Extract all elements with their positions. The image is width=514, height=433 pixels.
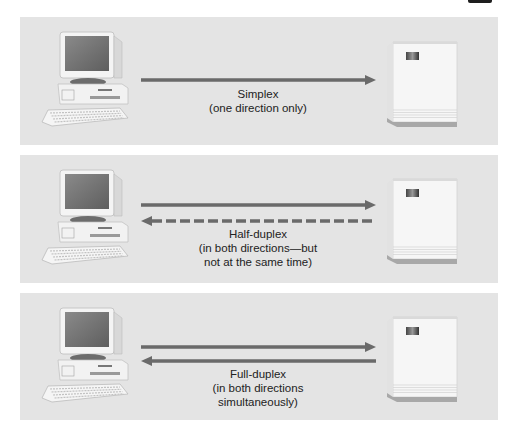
arrow-head: [365, 200, 376, 210]
server-icon: [387, 313, 461, 407]
server-display: [406, 52, 419, 60]
arrow-head: [141, 216, 152, 226]
server-icon: [387, 38, 461, 132]
mode-caption: Simplex (one direction only): [140, 87, 376, 115]
mode-caption: Full-duplex (in both directions simultan…: [140, 367, 376, 409]
simplex-panel: Simplex (one direction only): [20, 17, 498, 145]
arrow-left: [141, 216, 376, 226]
arrow-head: [365, 342, 376, 352]
mode-description: not at the same time): [140, 255, 376, 269]
mode-description: simultaneously): [140, 395, 376, 409]
server-display: [406, 189, 419, 197]
mode-caption: Half-duplex (in both directions—but not …: [140, 227, 376, 269]
server-top-edge: [393, 317, 457, 319]
server-top-edge: [393, 179, 457, 181]
mode-description: (one direction only): [140, 101, 376, 115]
arrow-right: [141, 200, 376, 210]
arrow-right: [141, 342, 376, 352]
server-display: [406, 327, 419, 335]
mode-description: (in both directions—but: [140, 241, 376, 255]
mode-title: Simplex: [140, 87, 376, 101]
arrow-head: [365, 75, 376, 85]
arrow-right: [141, 75, 376, 85]
half-duplex-panel: Half-duplex (in both directions—but not …: [20, 155, 498, 283]
mode-title: Full-duplex: [140, 367, 376, 381]
arrow-head: [141, 356, 152, 366]
arrow-left: [141, 356, 376, 366]
page-corner-tab: [468, 0, 492, 3]
mode-title: Half-duplex: [140, 227, 376, 241]
server-side: [387, 42, 393, 122]
server-top-edge: [393, 42, 457, 44]
full-duplex-panel: Full-duplex (in both directions simultan…: [20, 293, 498, 420]
mode-description: (in both directions: [140, 381, 376, 395]
server-side: [387, 317, 393, 397]
server-side: [387, 179, 393, 259]
server-icon: [387, 175, 461, 269]
